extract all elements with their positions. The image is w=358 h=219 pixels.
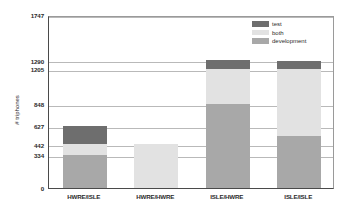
y-axis-tick-label: 442	[0, 142, 44, 149]
bar-segment-development	[277, 136, 321, 188]
y-axis-tick-label: 1747	[0, 12, 44, 19]
y-axis-tick-label: 848	[0, 101, 44, 108]
legend-label: development	[272, 38, 306, 44]
bar-segment-both	[277, 69, 321, 136]
bar-segment-both	[134, 144, 178, 188]
legend-label: test	[272, 21, 282, 27]
y-axis-tick-label: 627	[0, 123, 44, 130]
bar-segment-both	[206, 69, 250, 104]
bar-segment-development	[63, 155, 107, 188]
y-axis-title: # triphones	[14, 95, 20, 125]
legend-item-both[interactable]: both	[252, 30, 306, 36]
x-axis-tick-label: ISLE/ISLE	[250, 193, 346, 200]
gridline	[49, 17, 333, 18]
bar-hwre-isle[interactable]	[63, 126, 107, 188]
legend-swatch-icon	[252, 30, 269, 36]
bar-hwre-hwre[interactable]	[134, 144, 178, 188]
bar-isle-hwre[interactable]	[206, 60, 250, 188]
y-axis-tick-label: 0	[0, 185, 44, 192]
legend-item-development[interactable]: development	[252, 38, 306, 44]
bar-segment-development	[206, 104, 250, 188]
y-axis-tick-label: 334	[0, 152, 44, 159]
legend: testbothdevelopment	[252, 21, 306, 44]
bar-isle-isle[interactable]	[277, 61, 321, 188]
legend-item-test[interactable]: test	[252, 21, 306, 27]
bar-segment-test	[63, 126, 107, 144]
bar-segment-test	[206, 60, 250, 68]
bar-chart: # triphones 1747129012058486274423340 HW…	[0, 0, 358, 219]
bar-segment-both	[63, 144, 107, 155]
bar-segment-test	[277, 61, 321, 68]
legend-swatch-icon	[252, 21, 269, 27]
legend-label: both	[272, 30, 284, 36]
y-axis-tick-label: 1290	[0, 58, 44, 65]
legend-swatch-icon	[252, 38, 269, 44]
y-axis-tick-label: 1205	[0, 66, 44, 73]
